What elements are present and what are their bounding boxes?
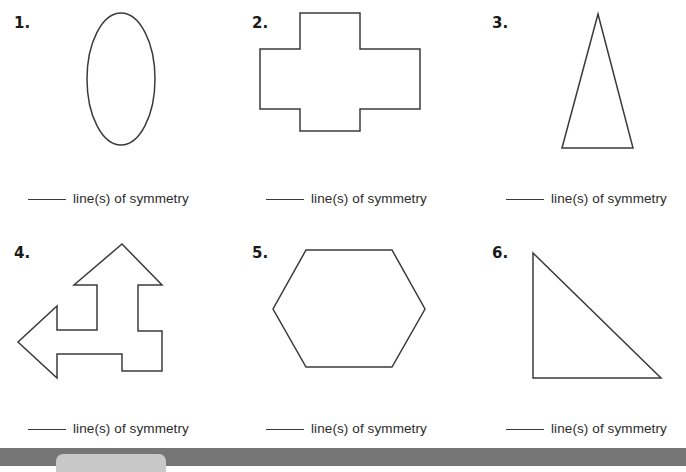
shape-cross xyxy=(242,6,470,166)
shape-ellipse xyxy=(4,6,232,166)
shape-isosceles-triangle xyxy=(482,6,686,166)
shape-hexagon xyxy=(242,236,470,396)
answer-blank-2[interactable] xyxy=(266,199,304,200)
answer-blank-1[interactable] xyxy=(28,199,66,200)
answer-label-6: line(s) of symmetry xyxy=(551,421,667,436)
toolbar-pill-button[interactable] xyxy=(56,454,166,472)
problem-6: 6. line(s) of symmetry xyxy=(482,236,686,446)
answer-line-6[interactable]: line(s) of symmetry xyxy=(506,421,667,436)
answer-label-1: line(s) of symmetry xyxy=(73,191,189,206)
answer-line-1[interactable]: line(s) of symmetry xyxy=(28,191,189,206)
answer-label-4: line(s) of symmetry xyxy=(73,421,189,436)
worksheet-page: 1. line(s) of symmetry 2. line(s) of sym… xyxy=(0,0,686,448)
answer-label-2: line(s) of symmetry xyxy=(311,191,427,206)
answer-blank-6[interactable] xyxy=(506,429,544,430)
problem-3: 3. line(s) of symmetry xyxy=(482,6,686,216)
answer-blank-3[interactable] xyxy=(506,199,544,200)
answer-line-4[interactable]: line(s) of symmetry xyxy=(28,421,189,436)
shape-right-triangle xyxy=(482,236,686,396)
bottom-toolbar xyxy=(0,448,686,466)
problem-4: 4. line(s) of symmetry xyxy=(4,236,232,446)
problem-2: 2. line(s) of symmetry xyxy=(242,6,470,216)
answer-blank-4[interactable] xyxy=(28,429,66,430)
answer-label-5: line(s) of symmetry xyxy=(311,421,427,436)
answer-line-3[interactable]: line(s) of symmetry xyxy=(506,191,667,206)
answer-line-2[interactable]: line(s) of symmetry xyxy=(266,191,427,206)
answer-line-5[interactable]: line(s) of symmetry xyxy=(266,421,427,436)
problem-5: 5. line(s) of symmetry xyxy=(242,236,470,446)
shape-bent-double-arrow xyxy=(4,236,232,396)
answer-blank-5[interactable] xyxy=(266,429,304,430)
problem-1: 1. line(s) of symmetry xyxy=(4,6,232,216)
answer-label-3: line(s) of symmetry xyxy=(551,191,667,206)
